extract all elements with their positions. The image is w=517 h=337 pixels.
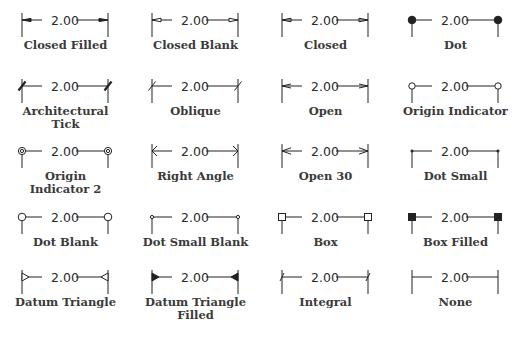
arrowhead-styles-figure: 2.00Closed Filled2.00Closed Blank2.00Clo… (0, 0, 517, 337)
arrowhead-label: Box Filled (391, 236, 517, 249)
dimension-value: 2.00 (51, 270, 79, 285)
arrowhead-sample-dot-small: 2.00Dot Small (391, 142, 517, 208)
arrowhead-sample-dot-blank: 2.00Dot Blank (1, 208, 130, 274)
arrowhead-sample-datum-triangle: 2.00Datum Triangle (1, 268, 130, 334)
arrowhead-label: Origin Indicator 2 (1, 170, 130, 196)
arrowhead-label: Dot Blank (1, 236, 130, 249)
arrowhead-sample-open: 2.00Open (261, 77, 390, 143)
dimension-value: 2.00 (441, 79, 469, 94)
arrowhead-label: Right Angle (131, 170, 260, 183)
dimension-value: 2.00 (51, 210, 79, 225)
arrowhead-label: Closed Blank (131, 39, 260, 52)
arrowhead-sample-closed: 2.00Closed (261, 11, 390, 77)
dimension-value: 2.00 (441, 270, 469, 285)
dimension-value: 2.00 (311, 270, 339, 285)
arrowhead-sample-integral: 2.00Integral (261, 268, 390, 334)
integral-dimension-icon: 2.00 (261, 268, 390, 298)
dimension-value: 2.00 (51, 13, 79, 28)
arrowhead-label: None (391, 296, 517, 309)
dot-small-dimension-icon: 2.00 (391, 142, 517, 172)
dimension-value: 2.00 (181, 79, 209, 94)
dot-blank-dimension-icon: 2.00 (1, 208, 130, 238)
arrowhead-sample-origin-indicator: 2.00Origin Indicator (391, 77, 517, 143)
dimension-value: 2.00 (311, 210, 339, 225)
dimension-value: 2.00 (181, 210, 209, 225)
closed-blank-dimension-icon: 2.00 (131, 11, 260, 41)
dimension-value: 2.00 (51, 144, 79, 159)
right-angle-dimension-icon: 2.00 (131, 142, 260, 172)
arrowhead-label: Oblique (131, 105, 260, 118)
arrowhead-label: Closed (261, 39, 390, 52)
open-dimension-icon: 2.00 (261, 77, 390, 107)
arrowhead-label: Dot Small (391, 170, 517, 183)
arrowhead-sample-open-30: 2.00Open 30 (261, 142, 390, 208)
arrowhead-label: Dot Small Blank (131, 236, 260, 249)
none-dimension-icon: 2.00 (391, 268, 517, 298)
dimension-value: 2.00 (441, 13, 469, 28)
arrowhead-sample-origin-indicator-2: 2.00Origin Indicator 2 (1, 142, 130, 208)
oblique-dimension-icon: 2.00 (131, 77, 260, 107)
arrowhead-label: Open 30 (261, 170, 390, 183)
box-dimension-icon: 2.00 (261, 208, 390, 238)
dot-dimension-icon: 2.00 (391, 11, 517, 41)
box-filled-dimension-icon: 2.00 (391, 208, 517, 238)
arrowhead-label: Integral (261, 296, 390, 309)
arrowhead-sample-closed-blank: 2.00Closed Blank (131, 11, 260, 77)
open-30-dimension-icon: 2.00 (261, 142, 390, 172)
arrowhead-sample-right-angle: 2.00Right Angle (131, 142, 260, 208)
arrowhead-label: Closed Filled (1, 39, 130, 52)
closed-filled-dimension-icon: 2.00 (1, 11, 130, 41)
arrowhead-sample-dot-small-blank: 2.00Dot Small Blank (131, 208, 260, 274)
arrowhead-label: Open (261, 105, 390, 118)
origin-indicator-dimension-icon: 2.00 (391, 77, 517, 107)
dimension-value: 2.00 (311, 144, 339, 159)
closed-dimension-icon: 2.00 (261, 11, 390, 41)
arrowhead-sample-dot: 2.00Dot (391, 11, 517, 77)
arrowhead-label: Datum Triangle Filled (131, 296, 260, 322)
arrowhead-sample-datum-triangle-filled: 2.00Datum Triangle Filled (131, 268, 260, 334)
dot-small-blank-dimension-icon: 2.00 (131, 208, 260, 238)
datum-triangle-dimension-icon: 2.00 (1, 268, 130, 298)
arrowhead-sample-architectural-tick: 2.00Architectural Tick (1, 77, 130, 143)
arrowhead-sample-none: 2.00None (391, 268, 517, 334)
dimension-value: 2.00 (441, 144, 469, 159)
dimension-value: 2.00 (181, 270, 209, 285)
arrowhead-label: Origin Indicator (391, 105, 517, 118)
origin-indicator-2-dimension-icon: 2.00 (1, 142, 130, 172)
dimension-value: 2.00 (441, 210, 469, 225)
arrowhead-label: Box (261, 236, 390, 249)
architectural-tick-dimension-icon: 2.00 (1, 77, 130, 107)
arrowhead-label: Architectural Tick (1, 105, 130, 131)
dimension-value: 2.00 (51, 79, 79, 94)
datum-triangle-filled-dimension-icon: 2.00 (131, 268, 260, 298)
arrowhead-sample-box-filled: 2.00Box Filled (391, 208, 517, 274)
dimension-value: 2.00 (311, 79, 339, 94)
arrowhead-label: Dot (391, 39, 517, 52)
arrowhead-label: Datum Triangle (1, 296, 130, 309)
arrowhead-sample-closed-filled: 2.00Closed Filled (1, 11, 130, 77)
arrowhead-sample-box: 2.00Box (261, 208, 390, 274)
dimension-value: 2.00 (181, 144, 209, 159)
arrowhead-sample-oblique: 2.00Oblique (131, 77, 260, 143)
dimension-value: 2.00 (311, 13, 339, 28)
dimension-value: 2.00 (181, 13, 209, 28)
